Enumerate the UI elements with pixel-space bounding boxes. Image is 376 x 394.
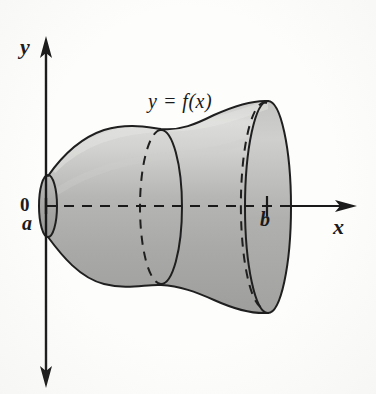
function-curve-label: y = f(x) bbox=[148, 90, 212, 113]
solid-of-revolution-figure: y x 0 a b y = f(x) bbox=[0, 0, 376, 394]
lower-limit-label-a: a bbox=[22, 212, 32, 235]
upper-limit-label-b: b bbox=[260, 208, 270, 231]
y-axis-label: y bbox=[20, 34, 30, 60]
figure-canvas bbox=[0, 0, 376, 394]
x-axis-label: x bbox=[333, 214, 344, 240]
